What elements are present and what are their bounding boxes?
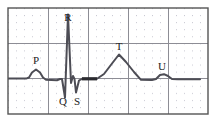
ecg-figure: PRQSTU (0, 0, 216, 123)
wave-label-r: R (64, 11, 72, 23)
wave-label-u: U (158, 60, 166, 72)
wave-label-t: T (116, 40, 123, 52)
wave-label-s: S (74, 95, 80, 107)
ecg-chart-svg: PRQSTU (0, 0, 216, 123)
wave-label-q: Q (59, 95, 67, 107)
wave-label-p: P (33, 54, 39, 66)
